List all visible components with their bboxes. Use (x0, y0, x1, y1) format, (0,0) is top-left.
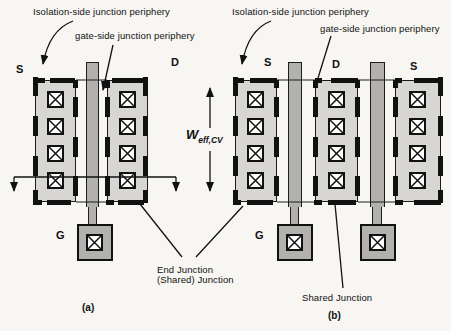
contact-icon (409, 172, 426, 189)
periphery-dash (314, 200, 322, 205)
periphery-dash (233, 78, 244, 83)
contact-icon (119, 145, 136, 162)
periphery-dash (73, 176, 78, 196)
periphery-dash (355, 176, 360, 196)
periphery-dash (233, 116, 238, 136)
weff-cv-label: Weff,CV (186, 127, 223, 145)
periphery-dash (438, 156, 443, 176)
end-junction-label: End Junction (Shared) Junction (157, 265, 234, 285)
contact-icon (328, 145, 345, 162)
terminal-d-a: D (171, 56, 179, 68)
weff-base: W (186, 127, 198, 142)
terminal-s1-b: S (264, 56, 271, 68)
gate-side-leader-b (318, 36, 331, 78)
periphery-dash (395, 78, 402, 83)
panel-a-gate-stem (88, 207, 97, 225)
periphery-dash (274, 176, 279, 196)
panel-b-gate-stem-1 (290, 207, 299, 225)
periphery-dash (73, 137, 78, 157)
periphery-dash (355, 80, 360, 88)
terminal-g-b: G (255, 229, 264, 241)
end-junction-leader-right (196, 206, 243, 257)
periphery-dash (106, 200, 114, 205)
periphery-dash (73, 97, 78, 117)
contact-icon (86, 234, 103, 251)
periphery-dash (315, 78, 322, 83)
panel-b-gate-stem-2 (372, 207, 382, 225)
periphery-dash (331, 78, 358, 83)
periphery-dash (438, 116, 443, 136)
caption-a: (a) (82, 302, 94, 313)
panel-a-gate-finger (86, 62, 99, 207)
panel-b-gate-finger-1 (288, 62, 302, 207)
periphery-dash (393, 176, 398, 196)
periphery-dash (414, 200, 441, 205)
periphery-dash (250, 78, 277, 83)
contact-icon (328, 91, 345, 108)
periphery-dash (33, 116, 38, 136)
periphery-dash (33, 78, 45, 83)
end-junction-line2: (Shared) Junction (157, 275, 234, 285)
periphery-dash (105, 97, 110, 117)
periphery-dash (143, 156, 148, 176)
periphery-dash (50, 78, 75, 83)
periphery-dash (414, 78, 441, 83)
caption-b: (b) (328, 310, 341, 321)
terminal-s2-b: S (410, 60, 417, 72)
terminal-g-a: G (56, 229, 65, 241)
periphery-dash (105, 176, 110, 196)
periphery-dash (393, 137, 398, 157)
terminal-s-a: S (16, 63, 23, 75)
contact-icon (247, 91, 264, 108)
periphery-dash (143, 116, 148, 136)
contact-icon (286, 234, 303, 251)
figure-canvas: Isolation-side junction periphery gate-s… (0, 0, 451, 331)
contact-icon (119, 118, 136, 135)
contact-icon (47, 172, 64, 189)
contact-icon (47, 118, 64, 135)
periphery-dash (313, 137, 318, 157)
shared-junction-label: Shared Junction (302, 292, 372, 303)
periphery-dash (247, 200, 273, 205)
periphery-dash (355, 97, 360, 117)
periphery-dash (118, 200, 144, 205)
isolation-arrow-a (43, 21, 73, 64)
contact-icon (409, 91, 426, 108)
periphery-dash (143, 77, 148, 96)
periphery-dash (233, 200, 241, 205)
contact-icon (47, 145, 64, 162)
contact-icon (328, 118, 345, 135)
contact-icon (247, 118, 264, 135)
contact-icon (409, 118, 426, 135)
end-junction-leader-left (140, 204, 182, 257)
contact-icon (47, 91, 64, 108)
periphery-dash (395, 200, 403, 205)
periphery-dash (274, 80, 279, 88)
contact-icon (247, 145, 264, 162)
gate-side-label-b: gate-side junction periphery (320, 23, 440, 34)
contact-icon (247, 172, 264, 189)
periphery-dash (105, 137, 110, 157)
periphery-dash (274, 137, 279, 157)
periphery-dash (105, 80, 110, 88)
shared-junction-leader (335, 204, 343, 288)
periphery-dash (438, 77, 443, 96)
isolation-label-b: Isolation-side junction periphery (232, 6, 369, 17)
isolation-label-a: Isolation-side junction periphery (33, 6, 170, 17)
contact-icon (409, 145, 426, 162)
periphery-dash (274, 97, 279, 117)
periphery-dash (47, 200, 71, 205)
gate-side-label-a: gate-side junction periphery (75, 30, 195, 41)
contact-icon (328, 172, 345, 189)
terminal-d-b: D (332, 58, 340, 70)
periphery-dash (73, 80, 78, 88)
periphery-dash (328, 200, 356, 205)
weff-subscript: eff,CV (198, 135, 222, 145)
periphery-dash (33, 200, 42, 205)
panel-b-gate-finger-2 (370, 62, 385, 207)
periphery-dash (313, 97, 318, 117)
periphery-dash (33, 156, 38, 176)
periphery-dash (393, 97, 398, 117)
periphery-dash (313, 176, 318, 196)
contact-icon (119, 172, 136, 189)
